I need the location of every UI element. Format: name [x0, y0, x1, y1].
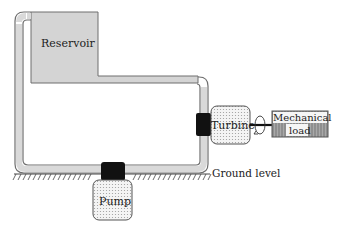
pumped-hydro-diagram: Reservoir Ground level — [0, 0, 342, 233]
mechanical-load: Mechanical load — [272, 111, 332, 137]
turbine-label: Turbine — [211, 119, 255, 132]
mechanical-load-label-line1: Mechanical — [273, 112, 332, 123]
mechanical-load-label-line2: load — [289, 125, 311, 136]
turbine-valve — [196, 113, 211, 136]
pump-label: Pump — [99, 195, 131, 208]
reservoir: Reservoir — [31, 12, 198, 83]
pump-valve — [101, 162, 125, 181]
ground-level-label: Ground level — [212, 167, 281, 179]
reservoir-label: Reservoir — [41, 37, 96, 50]
